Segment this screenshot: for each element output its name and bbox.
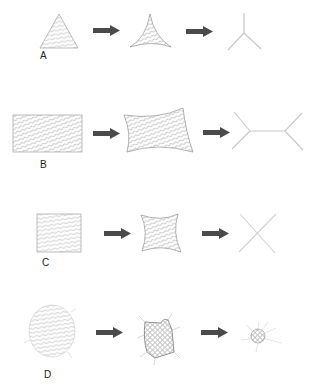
- row-label-b: B: [40, 160, 47, 170]
- row-d: [24, 305, 282, 365]
- concave-rectangle-shape: [124, 108, 193, 152]
- arrow-icon: [104, 228, 131, 239]
- double-junction-skeleton: [232, 112, 303, 150]
- arrow-icon: [93, 25, 120, 36]
- row-a: [40, 13, 261, 50]
- irregular-contracted-blob: [137, 313, 180, 365]
- square-shape: [37, 214, 81, 252]
- row-label-d: D: [44, 370, 51, 380]
- triangle-shape: [40, 14, 78, 48]
- diagram-canvas: [0, 0, 314, 388]
- three-way-junction-skeleton: [228, 13, 261, 50]
- row-b: [13, 108, 303, 152]
- concave-square-shape: [141, 214, 181, 252]
- arrow-icon: [93, 128, 120, 139]
- row-label-a: A: [40, 51, 47, 61]
- concave-triangle-shape: [130, 14, 171, 47]
- row-c: [37, 214, 276, 253]
- circle-shape: [24, 305, 76, 358]
- x-cross-skeleton: [239, 214, 276, 253]
- arrow-icon: [201, 327, 228, 338]
- arrow-icon: [202, 228, 229, 239]
- arrow-icon: [186, 26, 213, 37]
- rectangle-shape: [13, 115, 82, 152]
- row-label-c: C: [42, 258, 49, 268]
- arrow-icon: [203, 127, 230, 138]
- arrow-icon: [96, 327, 123, 338]
- small-spiky-blob: [241, 322, 282, 352]
